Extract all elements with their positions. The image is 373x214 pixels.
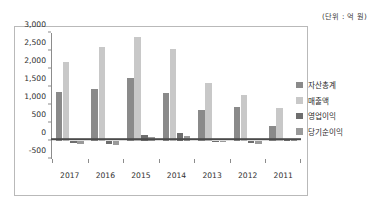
bar: [212, 141, 219, 142]
legend-item-label: 영업이익: [308, 110, 336, 121]
x-axis-tick-mark: [230, 159, 231, 163]
legend-item-label: 당기순이익: [308, 126, 344, 137]
bar: [70, 141, 77, 143]
legend-item[interactable]: 자산총계: [296, 77, 370, 93]
y-axis-tick-label: 1,000: [24, 92, 51, 101]
y-axis-tick-label: -500: [29, 146, 51, 155]
y-axis-tick-mark: [48, 32, 51, 33]
legend-item[interactable]: 매출액: [296, 93, 370, 109]
y-axis-tick-label: 3,000: [24, 20, 51, 29]
x-axis-tick-mark: [88, 159, 89, 163]
plot-area: 3,0002,5002,0001,5001,0005000-500 201720…: [51, 33, 301, 159]
y-axis-tick-label: 2,000: [24, 56, 51, 65]
y-axis-tick-mark: [48, 86, 51, 87]
legend: 자산총계매출액영업이익당기순이익: [296, 77, 370, 139]
x-axis-tick-mark: [194, 159, 195, 163]
y-axis-tick-label: 1,500: [24, 74, 51, 83]
legend-item-label: 매출액: [308, 95, 329, 106]
x-axis-tick-label: 2015: [131, 171, 150, 180]
x-axis-tick-label: 2017: [60, 171, 79, 180]
bar: [220, 141, 227, 142]
bar: [276, 108, 283, 141]
bar: [99, 47, 106, 141]
x-axis-tick-mark: [265, 159, 266, 163]
bar: [127, 78, 134, 141]
bar: [248, 141, 255, 143]
x-axis-tick-label: 2013: [202, 171, 221, 180]
bar: [63, 62, 70, 141]
legend-item-label: 자산총계: [308, 79, 336, 90]
bar: [241, 95, 248, 141]
x-axis-tick-label: 2014: [167, 171, 186, 180]
x-axis-tick-label: 2012: [238, 171, 257, 180]
x-axis-tick-label: 2011: [274, 171, 293, 180]
bar: [198, 110, 205, 141]
zero-baseline: [51, 139, 301, 141]
bar: [91, 89, 98, 141]
bar: [56, 92, 63, 141]
y-axis-tick-label: 500: [32, 110, 52, 119]
y-axis-tick-mark: [48, 50, 51, 51]
bar: [134, 37, 141, 141]
bar: [170, 49, 177, 141]
y-axis-tick-mark: [48, 68, 51, 69]
bar: [205, 83, 212, 141]
x-axis-tick-mark: [300, 159, 301, 163]
bar: [255, 141, 262, 144]
legend-item[interactable]: 당기순이익: [296, 124, 370, 140]
bar-chart: (단위 : 억 원) 3,0002,5002,0001,5001,0005000…: [0, 0, 373, 214]
y-axis-tick-mark: [48, 158, 51, 159]
x-axis-tick-mark: [159, 159, 160, 163]
y-axis-tick-mark: [48, 122, 51, 123]
legend-item[interactable]: 영업이익: [296, 108, 370, 124]
y-axis-tick-mark: [48, 104, 51, 105]
unit-note: (단위 : 억 원): [322, 11, 367, 21]
x-axis-tick-mark: [52, 159, 53, 163]
bar: [77, 141, 84, 144]
bar: [106, 141, 113, 144]
x-axis-tick-label: 2016: [96, 171, 115, 180]
plot-frame: 3,0002,5002,0001,5001,0005000-500 201720…: [14, 26, 308, 196]
bar: [234, 107, 241, 141]
bar: [163, 93, 170, 141]
y-axis-tick-label: 0: [41, 128, 51, 137]
bar: [113, 141, 120, 145]
x-axis-tick-mark: [123, 159, 124, 163]
y-axis-tick-label: 2,500: [24, 38, 51, 47]
